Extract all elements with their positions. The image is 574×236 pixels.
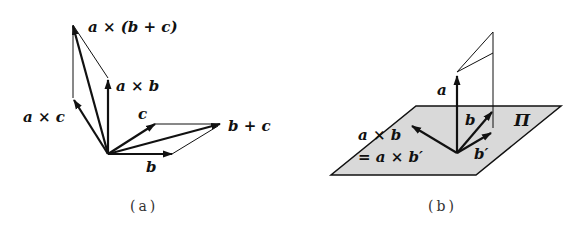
vector-a-cross-b-plus-c xyxy=(73,26,108,154)
construction-line xyxy=(457,32,493,72)
caption-b: (b) xyxy=(428,198,457,214)
label-a: a xyxy=(437,83,447,98)
label-b: b xyxy=(146,160,157,175)
label-b-prime: b′ xyxy=(474,147,488,162)
label-a-cross-c: a × c xyxy=(23,110,65,125)
label-a-cross-b-plus-c: a × (b + c) xyxy=(88,20,178,35)
vector-b-plus-c xyxy=(108,124,220,154)
vector-c xyxy=(108,124,155,154)
label-b-plus-c: b + c xyxy=(228,119,271,134)
label-eq-a-cross-b-prime: = a × b′ xyxy=(358,150,423,165)
label-plane-pi: Π xyxy=(514,112,530,129)
construction-line xyxy=(457,53,493,72)
vector-diagram xyxy=(0,0,574,236)
caption-a: (a) xyxy=(130,198,158,214)
label-a-cross-b: a × b xyxy=(116,79,159,94)
vector-a-cross-c xyxy=(74,100,108,154)
label-c: c xyxy=(138,107,147,122)
label-b: b xyxy=(465,113,476,128)
label-a-cross-b: a × b xyxy=(358,128,401,143)
